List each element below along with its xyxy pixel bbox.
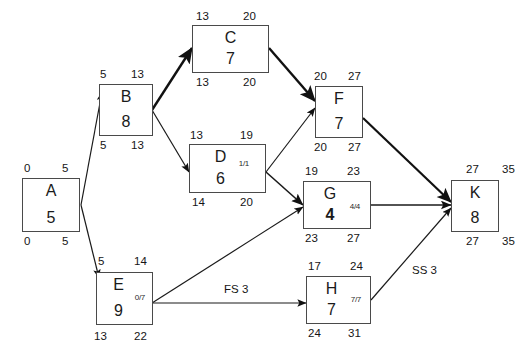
node-k[interactable]: K 8 [451, 180, 499, 232]
node-c-body: C 7 [193, 26, 268, 72]
node-h-early-finish: 24 [350, 261, 363, 273]
node-h-late-finish: 31 [348, 328, 361, 340]
node-a-early-finish: 5 [62, 163, 68, 175]
node-f-late-start: 20 [314, 142, 327, 154]
edge-d-f [266, 108, 315, 172]
node-d-float: 1/1 [239, 159, 249, 168]
node-b-body: B 8 [100, 85, 152, 135]
node-f-early-start: 20 [314, 71, 327, 83]
node-f-body: F 7 [316, 87, 362, 137]
node-c-early-start: 13 [196, 11, 209, 23]
node-b-early-finish: 13 [131, 69, 144, 81]
node-e-body: E 0/7 9 [97, 273, 152, 324]
node-g-duration: 4 [290, 207, 370, 223]
node-c-label: C [193, 30, 268, 46]
node-k-early-start: 27 [466, 164, 479, 176]
node-c-duration: 7 [193, 51, 268, 67]
edge-f-k [363, 118, 451, 202]
node-e-early-finish: 14 [134, 256, 147, 268]
node-d[interactable]: D 1/1 6 [189, 144, 266, 193]
node-k-label: K [452, 185, 498, 201]
node-d-late-finish: 20 [240, 197, 253, 209]
node-e-early-start: 5 [98, 256, 104, 268]
node-g-early-finish: 23 [347, 166, 360, 178]
node-e-float: 0/7 [135, 293, 145, 302]
edge-label-h-k: SS 3 [412, 265, 437, 277]
node-g-label: G [290, 186, 370, 202]
edge-a-e [81, 205, 99, 278]
node-a[interactable]: A 5 [22, 178, 80, 232]
node-e[interactable]: E 0/7 9 [96, 272, 153, 325]
node-a-body: A 5 [23, 179, 79, 231]
node-a-duration: 5 [23, 210, 79, 226]
node-e-late-finish: 22 [134, 331, 147, 343]
node-k-late-finish: 35 [502, 236, 515, 248]
node-c-early-finish: 20 [243, 11, 256, 23]
node-h-duration: 7 [293, 302, 370, 318]
node-d-body: D 1/1 6 [190, 145, 265, 192]
node-e-late-start: 13 [94, 331, 107, 343]
node-g-late-start: 23 [305, 233, 318, 245]
node-f-early-finish: 27 [348, 71, 361, 83]
node-k-duration: 8 [452, 210, 498, 226]
node-g-late-finish: 27 [347, 233, 360, 245]
node-f-label: F [316, 91, 362, 107]
node-c-late-finish: 20 [243, 77, 256, 89]
edge-h-k [371, 208, 451, 300]
node-h-late-start: 24 [308, 328, 321, 340]
network-diagram-canvas: A 5 0 5 0 5 B 8 5 13 5 13 C 7 13 20 13 2… [0, 0, 525, 353]
node-k-early-finish: 35 [502, 164, 515, 176]
node-h[interactable]: H 7/7 7 [306, 276, 371, 324]
node-c-late-start: 13 [196, 77, 209, 89]
edge-c-f [269, 48, 315, 101]
node-g[interactable]: G 4/4 4 [303, 181, 371, 229]
node-k-body: K 8 [452, 181, 498, 231]
edge-b-c [152, 48, 192, 110]
node-e-label: E [85, 277, 152, 293]
node-b-label: B [100, 89, 152, 105]
node-k-late-start: 27 [466, 236, 479, 248]
node-a-late-start: 0 [24, 236, 30, 248]
node-g-early-start: 19 [305, 166, 318, 178]
node-c[interactable]: C 7 [192, 25, 269, 73]
node-b-late-finish: 13 [131, 140, 144, 152]
node-f-duration: 7 [316, 116, 362, 132]
node-d-late-start: 14 [192, 197, 205, 209]
node-h-body: H 7/7 7 [307, 277, 370, 323]
node-d-label: D [176, 149, 265, 165]
node-b-early-start: 5 [100, 69, 106, 81]
node-e-duration: 9 [85, 303, 152, 319]
node-h-early-start: 17 [308, 261, 321, 273]
node-f[interactable]: F 7 [315, 86, 363, 138]
node-d-duration: 6 [176, 171, 265, 187]
edge-label-e-h: FS 3 [224, 284, 248, 296]
node-a-late-finish: 5 [62, 236, 68, 248]
node-b-duration: 8 [100, 114, 152, 130]
node-d-early-finish: 19 [240, 130, 253, 142]
node-a-label: A [23, 183, 79, 199]
node-g-body: G 4/4 4 [304, 182, 370, 228]
node-a-early-start: 0 [24, 163, 30, 175]
node-b[interactable]: B 8 [99, 84, 153, 136]
node-b-late-start: 5 [100, 140, 106, 152]
node-f-late-finish: 27 [348, 142, 361, 154]
node-d-early-start: 13 [190, 130, 203, 142]
